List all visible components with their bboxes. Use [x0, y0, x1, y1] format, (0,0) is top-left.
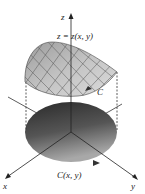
x-axis-arrow-icon: [5, 173, 11, 179]
z-axis-arrow-icon: [69, 13, 74, 19]
space-curve-label: C: [97, 87, 104, 97]
x-axis-label: x: [2, 181, 7, 191]
plane-curve-arrow-icon: [93, 160, 100, 166]
z-axis-label: z: [60, 12, 65, 22]
plane-curve-label: C(x, y): [57, 170, 82, 180]
surface-patch: [20, 40, 130, 100]
y-axis-back-upper: [110, 104, 122, 111]
surface-equation-label: z = z(x, y): [56, 31, 93, 41]
y-axis-arrow-icon: [132, 174, 138, 180]
y-axis-label: y: [130, 181, 135, 191]
surface-over-region-diagram: z z = z(x, y) C C(x, y) x y: [0, 0, 145, 194]
